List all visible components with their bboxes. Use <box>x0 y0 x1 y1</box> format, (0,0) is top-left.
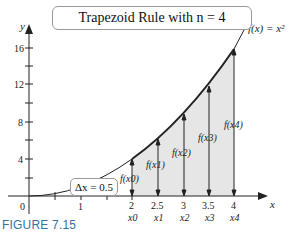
x-tick-4: 4 <box>231 200 236 211</box>
x4-label: x4 <box>229 212 239 223</box>
x-tick-3-5: 3.5 <box>202 200 215 211</box>
x-axis-label: x <box>269 198 275 210</box>
x-tick-2: 2 <box>129 200 134 211</box>
trapezoid-diagram: 16 12 8 4 y x 0 1 2 2.5 3 3.5 4 x0 x1 x2… <box>0 0 302 236</box>
f-x3-label: f(x3) <box>198 132 218 144</box>
x-tick-2-5: 2.5 <box>151 200 164 211</box>
delta-x-box: Δx = 0.5 <box>70 178 118 196</box>
y-tick-8: 8 <box>18 117 23 128</box>
y-tick-4: 4 <box>18 154 23 165</box>
y-axis-arrow-icon <box>25 24 33 34</box>
origin-label: 0 <box>20 201 25 212</box>
f-x4-label: f(x4) <box>224 119 244 131</box>
y-axis-label: y <box>19 20 25 32</box>
x-tick-3: 3 <box>181 200 186 211</box>
x-tick-1: 1 <box>78 201 83 212</box>
figure-caption: FIGURE 7.15 <box>2 218 76 232</box>
f-x2-label: f(x2) <box>172 147 192 159</box>
f-x1-label: f(x1) <box>146 159 166 171</box>
y-tick-12: 12 <box>14 79 24 90</box>
x0-label: x0 <box>127 212 137 223</box>
y-tick-16: 16 <box>14 43 24 54</box>
function-label: f(x) = x² <box>248 22 285 35</box>
title-box: Trapezoid Rule with n = 4 <box>52 6 252 30</box>
x2-label: x2 <box>179 212 189 223</box>
f-x0-label: f(x0) <box>120 173 140 185</box>
x3-label: x3 <box>204 212 214 223</box>
x-axis-arrow-icon <box>258 192 268 200</box>
x1-label: x1 <box>153 212 163 223</box>
